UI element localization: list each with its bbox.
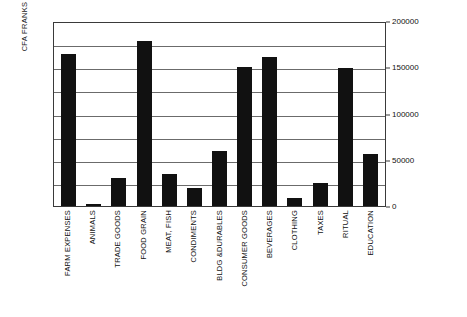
y-axis-tick-mark (386, 22, 390, 23)
y-axis-tick-label: 200000 (392, 18, 419, 26)
bar[interactable] (262, 57, 277, 206)
bar[interactable] (187, 188, 202, 206)
x-slot: RITUAL (333, 208, 358, 313)
x-axis-tick-label: FARM EXPENSES (64, 210, 72, 276)
plot-area (53, 22, 386, 207)
bar-slot (56, 23, 81, 206)
bar-slot (131, 23, 156, 206)
bar[interactable] (363, 154, 378, 206)
x-axis-tick-label: TRADE GOODS (114, 210, 122, 268)
bar[interactable] (287, 198, 302, 206)
x-axis-tick-label: FOOD GRAIN (140, 210, 148, 260)
bar-slot (358, 23, 383, 206)
x-axis-tick-label: BEVERAGES (266, 210, 274, 258)
x-axis-tick-label: MEAT, FISH (165, 210, 173, 253)
bar[interactable] (86, 204, 101, 206)
y-axis-tick-mark (386, 160, 390, 161)
x-slot: CONSUMER GOODS (232, 208, 257, 313)
bar[interactable] (212, 151, 227, 207)
bar-slot (308, 23, 333, 206)
x-axis-tick-label: EDUCATION (367, 210, 375, 255)
x-slot: MEAT, FISH (156, 208, 181, 313)
bars-layer (54, 23, 385, 206)
x-slot: TRADE GOODS (106, 208, 131, 313)
x-slot: CLOTHING (283, 208, 308, 313)
y-axis-tick-mark (386, 114, 390, 115)
bar[interactable] (61, 54, 76, 206)
y-axis-tick-label: 50000 (392, 157, 414, 165)
x-axis-tick-label: CONSUMER GOODS (241, 210, 249, 287)
x-axis-tick-label: RITUAL (342, 210, 350, 238)
x-slot: CONDIMENTS (182, 208, 207, 313)
bar-slot (257, 23, 282, 206)
y-axis-title: CFA FRANKS (18, 22, 32, 122)
bar[interactable] (338, 68, 353, 206)
x-slot: FOOD GRAIN (131, 208, 156, 313)
bar-slot (232, 23, 257, 206)
y-axis-tick-mark (386, 207, 390, 208)
bar-slot (207, 23, 232, 206)
bar-slot (333, 23, 358, 206)
x-axis-tick-labels: FARM EXPENSESANIMALSTRADE GOODSFOOD GRAI… (53, 208, 386, 313)
x-slot: EDUCATION (359, 208, 384, 313)
x-slot: TAXES (308, 208, 333, 313)
bar[interactable] (313, 183, 328, 206)
y-axis-title-text: CFA FRANKS (21, 2, 30, 52)
bar[interactable] (111, 178, 126, 206)
y-axis-tick-label: 150000 (392, 64, 419, 72)
bar[interactable] (162, 174, 177, 206)
x-slot: FARM EXPENSES (55, 208, 80, 313)
y-axis-tick-label: 0 (392, 203, 396, 211)
bar-slot (282, 23, 307, 206)
bar-slot (81, 23, 106, 206)
x-axis-tick-label: CONDIMENTS (190, 210, 198, 262)
x-slot: ANIMALS (80, 208, 105, 313)
x-axis-tick-label: CLOTHING (291, 210, 299, 250)
y-axis-tick-label: 100000 (392, 111, 419, 119)
bar-slot (106, 23, 131, 206)
x-slot: BEVERAGES (258, 208, 283, 313)
bar[interactable] (237, 67, 252, 206)
x-axis-tick-label: BLDG &DURABLES (216, 210, 224, 281)
bar[interactable] (137, 41, 152, 206)
bar-chart: CFA FRANKS 050000100000150000200000 FARM… (0, 0, 467, 317)
x-axis-tick-label: TAXES (317, 210, 325, 235)
x-axis-tick-label: ANIMALS (89, 210, 97, 244)
x-slot: BLDG &DURABLES (207, 208, 232, 313)
y-axis-tick-labels: 050000100000150000200000 (386, 22, 456, 207)
bar-slot (182, 23, 207, 206)
y-axis-tick-mark (386, 68, 390, 69)
bar-slot (157, 23, 182, 206)
